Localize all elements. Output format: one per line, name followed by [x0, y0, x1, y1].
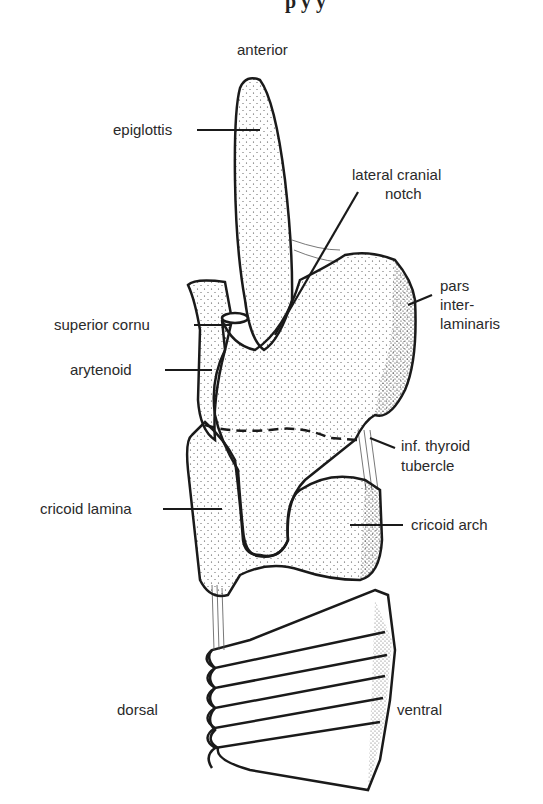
orientation-anterior: anterior	[237, 40, 288, 59]
label-cricoid-lamina: cricoid lamina	[40, 499, 132, 518]
label-superior-cornu: superior cornu	[54, 315, 150, 334]
epiglottis	[235, 78, 292, 350]
label-tubercle: tubercle	[401, 456, 454, 475]
orientation-dorsal: dorsal	[117, 700, 158, 719]
label-epiglottis: epiglottis	[113, 120, 172, 139]
label-cricoid-arch: cricoid arch	[411, 515, 488, 534]
label-arytenoid: arytenoid	[70, 360, 132, 379]
label-notch: notch	[385, 184, 422, 203]
larynx-illustration	[0, 0, 543, 804]
trachea	[207, 590, 395, 790]
label-inter: inter-	[440, 295, 474, 314]
orientation-ventral: ventral	[397, 700, 442, 719]
label-inf-thyroid: inf. thyroid	[401, 436, 470, 455]
header-fragment: p y y	[285, 0, 326, 13]
label-lateral-cranial: lateral cranial	[352, 165, 441, 184]
label-pars: pars	[440, 276, 469, 295]
larynx-diagram: p y y anterior epiglottis lateral crania…	[0, 0, 543, 804]
label-laminaris: laminaris	[440, 314, 500, 333]
